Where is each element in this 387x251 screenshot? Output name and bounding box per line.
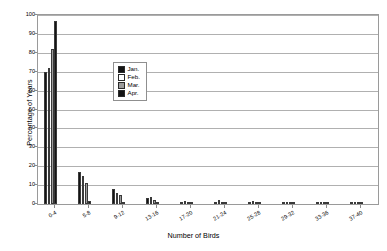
bar — [156, 202, 159, 204]
y-tick-label: 20 — [5, 162, 35, 168]
y-tick-mark — [34, 165, 37, 166]
legend-swatch-icon — [118, 66, 125, 73]
bar-group — [276, 15, 310, 204]
bar-group — [242, 15, 276, 204]
bar-group — [208, 15, 242, 204]
legend-swatch-icon — [118, 82, 125, 89]
bar — [258, 202, 261, 204]
y-tick-label: 40 — [5, 124, 35, 130]
x-tick-mark — [326, 205, 327, 208]
y-tick-label: 50 — [5, 106, 35, 112]
y-tick-mark — [34, 33, 37, 34]
bar — [190, 202, 193, 204]
x-tick-mark — [258, 205, 259, 208]
y-tick-mark — [34, 184, 37, 185]
legend-item: Jan. — [118, 66, 140, 73]
x-tick-label: 21-24 — [209, 209, 228, 223]
y-tick-label: 0 — [5, 200, 35, 206]
y-tick-label: 30 — [5, 143, 35, 149]
y-tick-mark — [34, 127, 37, 128]
bar-group — [174, 15, 208, 204]
x-tick-mark — [88, 205, 89, 208]
bar-group — [310, 15, 344, 204]
y-tick-mark — [34, 14, 37, 15]
x-tick-mark — [54, 205, 55, 208]
x-tick-label: 13-16 — [141, 209, 160, 223]
x-tick-label: 29-32 — [277, 209, 296, 223]
x-tick-mark — [292, 205, 293, 208]
x-tick-mark — [360, 205, 361, 208]
y-tick-mark — [34, 109, 37, 110]
legend-label: Apr. — [128, 90, 139, 96]
bar-group — [140, 15, 174, 204]
bar-chart-figure: Percentage of Years 01020304050607080901… — [0, 0, 387, 251]
bar — [88, 201, 91, 204]
y-tick-label: 60 — [5, 87, 35, 93]
y-tick-mark — [34, 52, 37, 53]
y-tick-mark — [34, 146, 37, 147]
x-tick-label: 9-12 — [107, 209, 126, 223]
bar — [122, 202, 125, 204]
chart-legend: Jan.Feb.Mar.Apr. — [113, 62, 147, 101]
x-tick-label: 33-36 — [311, 209, 330, 223]
plot-area — [37, 14, 379, 205]
y-tick-label: 10 — [5, 181, 35, 187]
bar-group — [106, 15, 140, 204]
x-tick-label: 37-40 — [345, 209, 364, 223]
bar — [360, 202, 363, 204]
bar — [54, 21, 57, 204]
bar-group — [344, 15, 378, 204]
legend-swatch-icon — [118, 90, 125, 97]
x-tick-label: 17-20 — [175, 209, 194, 223]
bar-group — [38, 15, 72, 204]
y-tick-label: 90 — [5, 30, 35, 36]
y-tick-label: 70 — [5, 68, 35, 74]
bar — [292, 202, 295, 204]
y-tick-mark — [34, 71, 37, 72]
legend-item: Feb. — [118, 74, 140, 81]
y-tick-mark — [34, 203, 37, 204]
y-tick-label: 80 — [5, 49, 35, 55]
bar-group — [72, 15, 106, 204]
y-tick-label: 100 — [5, 11, 35, 17]
x-axis-title: Number of Birds — [0, 231, 387, 240]
x-tick-label: 5-8 — [73, 209, 92, 223]
x-tick-mark — [190, 205, 191, 208]
x-tick-mark — [224, 205, 225, 208]
x-tick-label: 0-4 — [39, 209, 58, 223]
bar — [326, 202, 329, 204]
legend-label: Feb. — [128, 74, 140, 80]
legend-label: Mar. — [128, 82, 140, 88]
x-tick-mark — [122, 205, 123, 208]
y-axis-title: Percentage of Years — [25, 33, 34, 193]
x-tick-label: 25-28 — [243, 209, 262, 223]
x-tick-mark — [156, 205, 157, 208]
legend-label: Jan. — [128, 66, 140, 72]
y-tick-mark — [34, 90, 37, 91]
legend-item: Apr. — [118, 90, 140, 97]
bar — [224, 202, 227, 204]
legend-swatch-icon — [118, 74, 125, 81]
legend-item: Mar. — [118, 82, 140, 89]
